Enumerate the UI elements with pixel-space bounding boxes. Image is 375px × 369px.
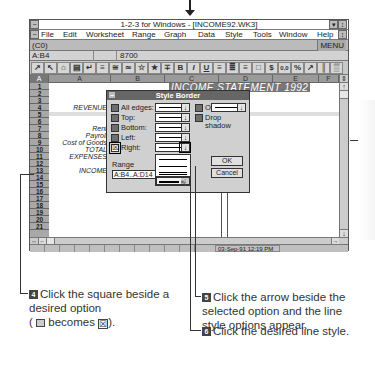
chart-button[interactable]: ║: [317, 62, 330, 74]
range-input[interactable]: A:B4..A:D14: [112, 170, 156, 179]
outline-button[interactable]: □: [252, 62, 265, 74]
menu-worksheet[interactable]: Worksheet: [86, 30, 124, 40]
right-checkbox[interactable]: ☒: [111, 144, 119, 152]
drop-shadow-checkbox[interactable]: [195, 114, 203, 122]
right-line-select[interactable]: ↓: [155, 143, 190, 152]
scroll-up-arrow-icon[interactable]: ↑: [340, 83, 348, 91]
toolbar-icon-7[interactable]: ≅: [109, 62, 122, 74]
menu-range[interactable]: Range: [132, 30, 156, 40]
align-left-button[interactable]: ≡: [213, 62, 226, 74]
toolbar-icon-5[interactable]: ↵: [83, 62, 96, 74]
toolbar-icon-6[interactable]: ≡: [96, 62, 109, 74]
line-style-option[interactable]: [159, 159, 187, 160]
row-header[interactable]: 17: [30, 195, 49, 202]
cell-contents[interactable]: 8700: [120, 51, 138, 61]
toolbar-icon-2[interactable]: ↖: [44, 62, 57, 74]
row-header[interactable]: 20: [30, 216, 49, 223]
cell-total-expenses[interactable]: TOTAL EXPENSES: [49, 146, 107, 160]
row-header[interactable]: 19: [30, 209, 49, 216]
toolbar-icon-9[interactable]: ☆: [135, 62, 148, 74]
document-restore-button[interactable]: ↕: [338, 30, 347, 39]
horizontal-scrollbar[interactable]: ↔ ← →: [30, 237, 348, 244]
outline-line-select[interactable]: ↓: [211, 103, 246, 112]
line-style-option[interactable]: [159, 166, 187, 167]
row-header[interactable]: 21: [30, 223, 49, 230]
menu-tools[interactable]: Tools: [253, 30, 272, 40]
left-line-select[interactable]: ↓: [155, 133, 190, 142]
restore-button[interactable]: ↕: [338, 20, 347, 29]
row-header[interactable]: 14: [30, 174, 49, 181]
menu-graph[interactable]: Graph: [164, 30, 186, 40]
all-edges-line-select[interactable]: ↓: [155, 103, 190, 112]
system-menu-button[interactable]: −: [30, 20, 39, 29]
bold-button[interactable]: B: [174, 62, 187, 74]
dropdown-arrow-icon[interactable]: ↓: [181, 104, 189, 111]
bottom-checkbox[interactable]: [111, 124, 119, 132]
toolbar-icon-8[interactable]: ≃: [122, 62, 135, 74]
cell-payroll[interactable]: Payroll: [49, 132, 107, 139]
currency-button[interactable]: $: [265, 62, 278, 74]
document-system-menu[interactable]: −: [30, 30, 39, 39]
ok-button[interactable]: OK: [211, 156, 243, 166]
row-header[interactable]: 13: [30, 167, 49, 174]
top-checkbox[interactable]: [111, 114, 119, 122]
dialog-system-menu[interactable]: −: [108, 91, 116, 99]
cancel-button[interactable]: Cancel: [211, 168, 243, 178]
bottom-line-select[interactable]: ↓: [155, 123, 190, 132]
toolbar-icon-22[interactable]: ↗: [304, 62, 317, 74]
menu-window[interactable]: Window: [279, 30, 307, 40]
row-header[interactable]: 18: [30, 202, 49, 209]
row-header[interactable]: 1: [30, 83, 49, 90]
row-header[interactable]: 6: [30, 118, 49, 125]
comma-button[interactable]: 0,0: [278, 62, 291, 74]
toolbar-icon-4[interactable]: ▤: [70, 62, 83, 74]
row-header[interactable]: 3: [30, 97, 49, 104]
align-right-button[interactable]: ≡: [239, 62, 252, 74]
minimize-button[interactable]: ▾: [329, 20, 338, 29]
cell-revenue[interactable]: REVENUE: [49, 104, 107, 111]
column-header-b[interactable]: B: [111, 75, 165, 83]
dropdown-arrow-icon[interactable]: ↓: [237, 104, 245, 111]
align-center-button[interactable]: ≣: [226, 62, 239, 74]
cell-cost-of-goods[interactable]: Cost of Goods: [49, 139, 107, 146]
cell-income[interactable]: INCOME: [49, 167, 107, 174]
dropdown-arrow-icon[interactable]: ↓: [181, 134, 189, 141]
navigator[interactable]: [97, 51, 117, 61]
toolbar-icon-10[interactable]: ★: [148, 62, 161, 74]
menu-file[interactable]: File: [41, 30, 54, 40]
cell-rent[interactable]: Rent: [49, 125, 107, 132]
split-icon[interactable]: ⇕: [340, 75, 348, 83]
toolbar-icon-24[interactable]: ▒: [330, 62, 343, 74]
toolbar-icon-3[interactable]: ⌂: [57, 62, 70, 74]
menu-help[interactable]: Help: [317, 30, 333, 40]
row-header[interactable]: 9: [30, 139, 49, 146]
row-header[interactable]: 10: [30, 146, 49, 153]
top-line-select[interactable]: ↓: [155, 113, 190, 122]
menu-style[interactable]: Style: [225, 30, 243, 40]
dropdown-arrow-icon[interactable]: ↓: [181, 114, 189, 121]
line-style-option[interactable]: [159, 172, 187, 173]
row-header[interactable]: 12: [30, 160, 49, 167]
selection-indicator[interactable]: A:B4: [32, 51, 94, 61]
percent-button[interactable]: %: [291, 62, 304, 74]
row-header[interactable]: 11: [30, 153, 49, 160]
row-header[interactable]: 8: [30, 132, 49, 139]
toolbar-icon-1[interactable]: ↗: [31, 62, 44, 74]
scroll-down-arrow-icon[interactable]: ↓: [340, 229, 348, 237]
row-header[interactable]: 7: [30, 125, 49, 132]
left-checkbox[interactable]: [111, 134, 119, 142]
dropdown-arrow-icon[interactable]: ↓: [181, 124, 189, 131]
menu-edit[interactable]: Edit: [63, 30, 77, 40]
row-header[interactable]: 5: [30, 111, 49, 118]
row-header[interactable]: 15: [30, 181, 49, 188]
underline-button[interactable]: U: [200, 62, 213, 74]
row-header[interactable]: 16: [30, 188, 49, 195]
scroll-thumb[interactable]: [340, 91, 348, 99]
toolbar-icon-11[interactable]: ∓: [161, 62, 174, 74]
outline-checkbox[interactable]: [195, 104, 203, 112]
column-header-a[interactable]: A: [49, 75, 111, 83]
column-header-f[interactable]: F: [319, 75, 339, 83]
row-header[interactable]: 4: [30, 104, 49, 111]
sheet-letter[interactable]: A: [30, 75, 49, 83]
menu-data[interactable]: Data: [198, 30, 215, 40]
